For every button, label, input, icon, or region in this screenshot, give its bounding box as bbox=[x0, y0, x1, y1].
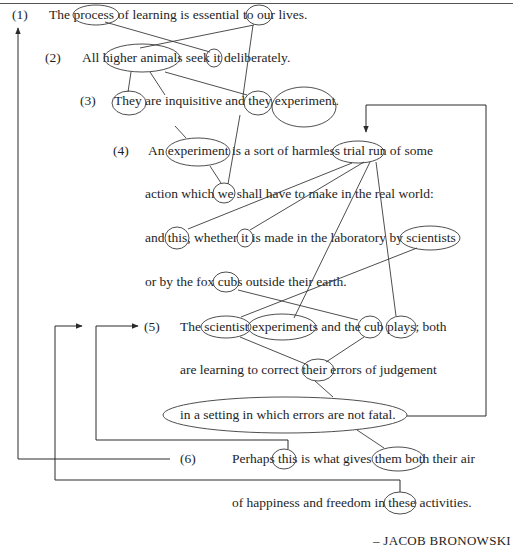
sentence-number-4: (4) bbox=[113, 143, 129, 159]
top-rule bbox=[0, 3, 513, 4]
sentence-number-2: (2) bbox=[45, 50, 61, 66]
sentence-2-line-1: All higher animals seek it deliberately. bbox=[82, 50, 290, 66]
sentence-4-line-1: An experiment is a sort of harmless tria… bbox=[148, 143, 433, 159]
sentence-6-line-2: of happiness and freedom in these activi… bbox=[232, 495, 472, 511]
sentence-4-line-4: or by the fox cubs outside their earth. bbox=[145, 274, 347, 290]
sentence-4-line-2: action which we shall have to make in th… bbox=[145, 186, 434, 202]
attribution: – JACOB BRONOWSKI bbox=[373, 533, 511, 549]
sentence-number-6: (6) bbox=[180, 451, 196, 467]
sentence-number-3: (3) bbox=[80, 93, 96, 109]
sentence-5-line-1: The scientist experiments and the cub pl… bbox=[180, 319, 447, 335]
sentence-1-line-1: The process of learning is essential to … bbox=[49, 7, 307, 23]
sentence-number-1: (1) bbox=[12, 7, 28, 23]
sentence-6-line-1: Perhaps this is what gives them both the… bbox=[232, 451, 475, 467]
sentence-4-line-3: and this, whether it is made in the labo… bbox=[145, 230, 456, 246]
bronowski-cohesion-diagram: (1) (2) (3) (4) (5) (6) The process of l… bbox=[0, 0, 513, 551]
sentence-3-line-1: They are inquisitive and they experiment… bbox=[114, 93, 339, 109]
sentence-number-5: (5) bbox=[144, 319, 160, 335]
sentence-5-line-3: in a setting in which errors are not fat… bbox=[180, 407, 396, 423]
sentence-5-line-2: are learning to correct their errors of … bbox=[180, 362, 437, 378]
